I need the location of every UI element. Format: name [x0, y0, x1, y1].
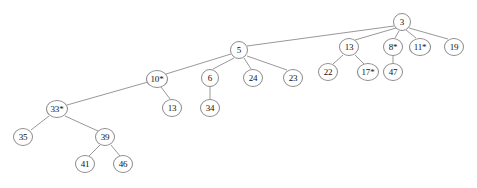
- tree-edge: [161, 87, 170, 99]
- tree-node[interactable]: 41: [75, 155, 95, 173]
- tree-node-label: 34: [206, 103, 215, 112]
- tree-node[interactable]: 11*: [409, 38, 431, 56]
- tree-edge: [395, 31, 399, 38]
- tree-node[interactable]: 34: [200, 99, 220, 117]
- tree-node[interactable]: 10*: [146, 70, 168, 88]
- tree-node[interactable]: 19: [444, 38, 464, 56]
- tree-diagram-canvas: 3138*11*1952217*4710*62423133433*3539414…: [0, 0, 477, 188]
- tree-node-label: 47: [389, 67, 398, 76]
- tree-edge: [213, 58, 234, 69]
- tree-node-label: 24: [249, 73, 258, 82]
- tree-edge: [166, 54, 231, 74]
- tree-node[interactable]: 23: [283, 69, 303, 87]
- tree-edge: [355, 55, 364, 64]
- tree-node-label: 13: [345, 42, 354, 51]
- tree-node-label: 46: [119, 159, 128, 168]
- tree-edge: [111, 145, 120, 156]
- tree-node-label: 35: [19, 132, 28, 141]
- tree-node-label: 11*: [414, 42, 427, 51]
- tree-node[interactable]: 24: [243, 69, 263, 87]
- tree-node-label: 10*: [151, 74, 164, 83]
- tree-node-label: 17*: [362, 67, 375, 76]
- tree-node-label: 3: [400, 17, 404, 26]
- tree-node[interactable]: 33*: [46, 100, 68, 118]
- tree-node[interactable]: 39: [95, 128, 115, 146]
- tree-node-label: 6: [208, 73, 212, 82]
- tree-node[interactable]: 17*: [357, 63, 379, 81]
- tree-node[interactable]: 3: [393, 13, 411, 31]
- tree-node-label: 23: [289, 73, 298, 82]
- tree-node-label: 33*: [51, 104, 64, 113]
- tree-edge: [31, 116, 49, 130]
- tree-edge: [244, 58, 251, 69]
- tree-edge: [247, 26, 394, 46]
- tree-node-label: 8*: [389, 42, 398, 51]
- tree-node[interactable]: 46: [113, 155, 133, 173]
- tree-node[interactable]: 8*: [383, 38, 403, 56]
- tree-node[interactable]: 22: [318, 63, 338, 81]
- tree-edge: [333, 55, 343, 64]
- tree-node[interactable]: 13: [162, 99, 182, 117]
- tree-node[interactable]: 5: [230, 41, 248, 59]
- tree-node[interactable]: 13: [339, 38, 359, 56]
- tree-node-label: 41: [81, 159, 90, 168]
- tree-node-label: 13: [168, 103, 177, 112]
- tree-node[interactable]: 47: [383, 63, 403, 81]
- tree-edge: [65, 116, 98, 131]
- tree-node-label: 39: [101, 132, 110, 141]
- tree-node-label: 19: [450, 42, 459, 51]
- tree-edge: [406, 30, 416, 38]
- tree-edge: [89, 145, 100, 156]
- tree-edge: [247, 56, 287, 70]
- tree-node-label: 22: [324, 67, 333, 76]
- tree-node-label: 5: [237, 45, 241, 54]
- tree-node[interactable]: 35: [13, 128, 33, 146]
- tree-node[interactable]: 6: [201, 69, 219, 87]
- tree-edge: [67, 82, 148, 105]
